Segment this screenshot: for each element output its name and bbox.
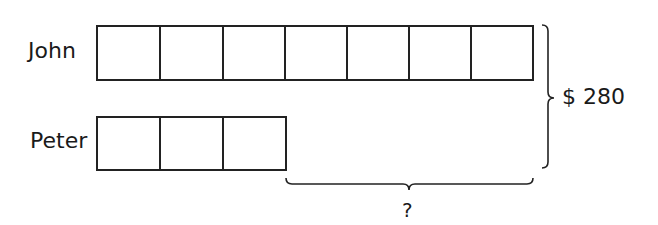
difference-brace (286, 178, 533, 190)
peter-bar (97, 117, 286, 170)
john-bar (97, 26, 533, 80)
total-brace (542, 25, 554, 168)
bar-model-drawing (0, 0, 658, 225)
